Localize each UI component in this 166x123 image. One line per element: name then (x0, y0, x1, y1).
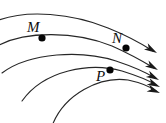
field-line-1-arrow-icon (144, 43, 159, 56)
field-line-4 (22, 68, 156, 101)
field-line-1 (0, 14, 153, 51)
field-line-2 (0, 35, 154, 68)
field-line-4-arrow-icon (147, 78, 162, 90)
flow-line-group (0, 14, 156, 123)
field-line-canvas: MNP (0, 0, 166, 123)
field-line-2-arrow-icon (145, 60, 160, 73)
field-line-figure: MNP (0, 0, 166, 123)
point-label-m: M (26, 19, 41, 35)
point-marker-m (38, 34, 45, 41)
arrow-head-group (144, 43, 162, 96)
field-line-5 (52, 79, 156, 123)
point-label-n: N (111, 30, 123, 46)
point-marker-p (106, 66, 113, 73)
point-label-p: P (95, 68, 105, 84)
point-marker-n (122, 44, 129, 51)
